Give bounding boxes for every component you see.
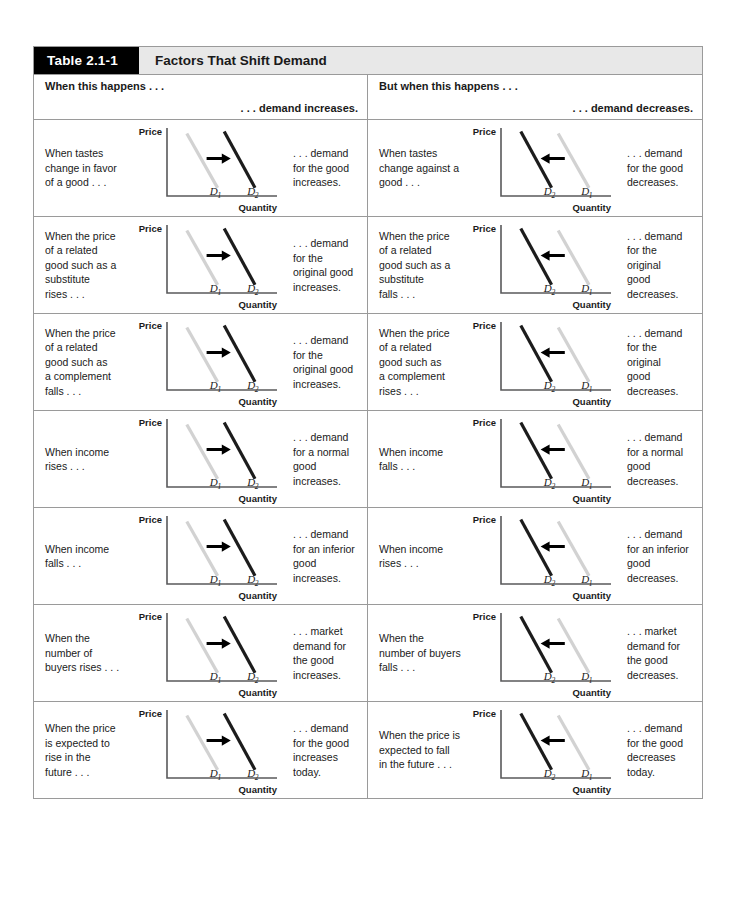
table-row: When tastes change in favor of a good . …: [34, 120, 702, 217]
result-lines: . . . demand for the good increases.: [293, 146, 363, 190]
row-1-left-half: When tastes change in favor of a good . …: [34, 120, 368, 216]
curve-label-D2: D2: [543, 573, 556, 588]
demand-curve-d1: [558, 521, 589, 575]
result-lines: . . . demand for the good decreases toda…: [627, 721, 698, 779]
demand-curve-d1: [187, 715, 218, 769]
demand-curve-d1: [558, 715, 589, 769]
result-text: . . . demand for the good increases.: [287, 146, 367, 190]
y-axis-label: Price: [139, 320, 162, 331]
curve-label-D1: D1: [209, 282, 221, 297]
result-text: . . . demand for the original good decre…: [621, 229, 702, 302]
result-text: . . . demand for an inferior good increa…: [287, 527, 367, 585]
shift-arrow-left: [541, 347, 565, 357]
chart-cell: PriceD1D2Quantity: [137, 508, 287, 604]
condition-lines: When income rises . . .: [45, 445, 137, 474]
x-axis-label: Quantity: [238, 493, 277, 504]
svg-text:2: 2: [551, 676, 555, 685]
textbook-page: Table 2.1-1 Factors That Shift Demand Wh…: [0, 0, 736, 899]
svg-text:1: 1: [589, 288, 593, 297]
curve-label-D2: D2: [543, 767, 556, 782]
result-text: . . . market demand for the good decreas…: [621, 624, 702, 682]
x-axis-label: Quantity: [572, 590, 611, 601]
condition-text: When the price is expected to rise in th…: [34, 721, 137, 779]
row-2-left-half: When the price of a related good such as…: [34, 217, 368, 313]
table-row: When the price of a related good such as…: [34, 217, 702, 314]
result-lines: . . . demand for the original good incre…: [293, 236, 363, 294]
x-axis-label: Quantity: [238, 687, 277, 698]
y-axis-label: Price: [139, 223, 162, 234]
chart-cell: PriceD1D2Quantity: [137, 217, 287, 313]
row-4-left-half: When income rises . . .PriceD1D2Quantity…: [34, 411, 368, 507]
x-axis-label: Quantity: [572, 202, 611, 213]
chart-axes: [501, 710, 611, 778]
y-axis-label: Price: [139, 126, 162, 137]
result-lines: . . . market demand for the good decreas…: [627, 624, 698, 682]
condition-lines: When the price is expected to rise in th…: [45, 721, 137, 779]
demand-curve-d1: [187, 521, 218, 575]
y-axis-label: Price: [139, 417, 162, 428]
chart-cell: PriceD1D2Quantity: [471, 411, 621, 507]
table-row: When the price of a related good such as…: [34, 314, 702, 411]
result-lines: . . . market demand for the good increas…: [293, 624, 363, 682]
shift-arrow-right: [207, 250, 231, 260]
demand-shift-chart-right: PriceD1D2Quantity: [137, 605, 287, 701]
table-title: Factors That Shift Demand: [139, 47, 327, 74]
condition-lines: When the number of buyers rises . . .: [45, 631, 137, 675]
svg-text:1: 1: [217, 579, 221, 588]
curve-label-D2: D2: [246, 185, 259, 200]
chart-cell: PriceD1D2Quantity: [471, 217, 621, 313]
chart-axes: [501, 225, 611, 293]
svg-text:2: 2: [255, 191, 259, 200]
svg-text:2: 2: [551, 482, 555, 491]
curve-label-D2: D2: [246, 670, 259, 685]
y-axis-label: Price: [139, 514, 162, 525]
svg-text:1: 1: [217, 676, 221, 685]
condition-text: When income falls . . .: [368, 445, 471, 474]
shift-arrow-right: [207, 153, 231, 163]
demand-shift-chart-right: PriceD1D2Quantity: [137, 702, 287, 798]
chart-cell: PriceD1D2Quantity: [137, 605, 287, 701]
row-2-right-half: When the price of a related good such as…: [368, 217, 702, 313]
curve-label-D1: D1: [580, 185, 592, 200]
result-text: . . . demand for the good decreases.: [621, 146, 702, 190]
result-text: . . . demand for a normal good increases…: [287, 430, 367, 488]
condition-lines: When the price of a related good such as…: [379, 326, 471, 399]
curve-label-D2: D2: [543, 379, 556, 394]
shift-arrow-right: [207, 735, 231, 745]
result-lines: . . . demand for a normal good decreases…: [627, 430, 698, 488]
shift-arrow-right: [207, 541, 231, 551]
column-header-row: When this happens . . . . . . demand inc…: [34, 75, 702, 120]
curve-label-D1: D1: [580, 282, 592, 297]
svg-text:1: 1: [589, 191, 593, 200]
x-axis-label: Quantity: [572, 687, 611, 698]
shift-arrow-left: [541, 444, 565, 454]
table-number-tag: Table 2.1-1: [34, 47, 139, 74]
svg-text:2: 2: [255, 385, 259, 394]
result-text: . . . demand for the good decreases toda…: [621, 721, 702, 779]
curve-label-D1: D1: [580, 379, 592, 394]
chart-axes: [501, 613, 611, 681]
header-left-half: When this happens . . . . . . demand inc…: [34, 75, 368, 119]
row-3-right-half: When the price of a related good such as…: [368, 314, 702, 410]
result-lines: . . . demand for the original good decre…: [627, 229, 698, 302]
shift-arrow-left: [541, 735, 565, 745]
svg-text:2: 2: [255, 482, 259, 491]
condition-text: When the price of a related good such as…: [368, 326, 471, 399]
condition-text: When the number of buyers rises . . .: [34, 631, 137, 675]
curve-label-D1: D1: [209, 670, 221, 685]
curve-label-D2: D2: [246, 767, 259, 782]
curve-label-D2: D2: [246, 282, 259, 297]
condition-lines: When income rises . . .: [379, 542, 471, 571]
chart-cell: PriceD1D2Quantity: [137, 120, 287, 216]
demand-curve-d1: [187, 133, 218, 187]
result-lines: . . . demand for an inferior good decrea…: [627, 527, 698, 585]
x-axis-label: Quantity: [572, 299, 611, 310]
shift-arrow-right: [207, 444, 231, 454]
demand-shift-chart-left: PriceD1D2Quantity: [471, 605, 621, 701]
svg-text:2: 2: [551, 191, 555, 200]
result-text: . . . demand for the original good decre…: [621, 326, 702, 399]
curve-label-D2: D2: [543, 670, 556, 685]
table-row: When the price is expected to rise in th…: [34, 702, 702, 798]
condition-text: When tastes change in favor of a good . …: [34, 146, 137, 190]
condition-lines: When the price of a related good such as…: [379, 229, 471, 302]
